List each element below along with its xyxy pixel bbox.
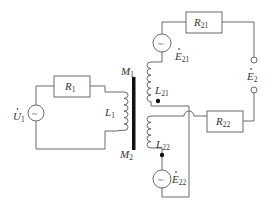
wire-r22-to-terminal	[243, 93, 254, 121]
inductor-l1	[118, 92, 128, 130]
source-u1-symbol: ~	[32, 108, 38, 119]
source-e22-symbol: ~	[158, 174, 164, 185]
source-e21-phasor-dot	[178, 48, 180, 50]
wire-e21-to-l21	[155, 52, 162, 62]
upper-secondary: L21 ~ E21 R21	[147, 12, 254, 116]
terminal-top[interactable]	[251, 57, 257, 63]
source-u1-phasor-dot	[17, 108, 19, 110]
core-label-m1: M1	[120, 65, 134, 79]
wire-r1-to-l1	[90, 86, 118, 92]
inductor-l22-polarity-dot	[160, 153, 164, 157]
source-e22-label: E22	[171, 173, 186, 187]
terminal-bottom[interactable]	[251, 87, 257, 93]
wire-r21-to-terminal	[222, 22, 254, 57]
wire-l22-to-r22	[155, 111, 207, 116]
output-terminals: E2	[246, 57, 258, 93]
source-e22-phasor-dot	[175, 171, 177, 173]
transformer-core: M1 M2	[119, 65, 136, 162]
inductor-l21-polarity-dot	[156, 99, 160, 103]
core-bar	[132, 77, 136, 150]
inductor-l21-label: L21	[154, 84, 169, 98]
primary-circuit: R1 ~ U1 L1	[13, 76, 128, 149]
lower-secondary: L22 ~ E22 R22	[147, 93, 254, 197]
core-label-m2: M2	[119, 148, 133, 162]
inductor-l22-label: L22	[155, 138, 170, 152]
circuit-diagram: R1 ~ U1 L1 M1 M2 L21	[0, 0, 272, 212]
source-u1-label: U1	[13, 110, 25, 124]
source-e21-label: E21	[174, 50, 189, 64]
inductor-l1-label: L1	[104, 106, 115, 120]
output-e2-phasor-dot	[250, 68, 252, 70]
wire-e21-to-r21	[162, 22, 186, 34]
source-e21-symbol: ~	[158, 38, 164, 49]
output-e2-label: E2	[246, 70, 258, 84]
